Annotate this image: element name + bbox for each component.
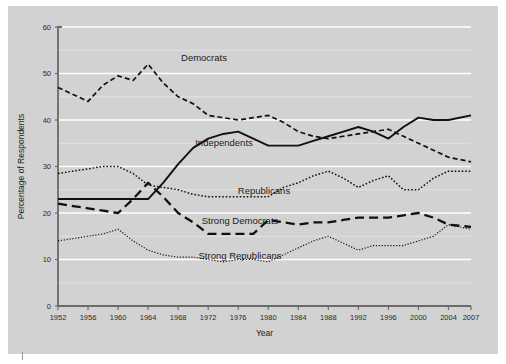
- y-tick-label-60: 60: [43, 23, 51, 32]
- x-tick-label-1972: 1972: [200, 313, 217, 322]
- chart-screenshot: 0102030405060 19521956196019641968197219…: [0, 0, 506, 364]
- series-label-republicans: Republicans: [238, 185, 291, 196]
- y-tick-label-20: 20: [43, 209, 51, 218]
- x-tick-label-1984: 1984: [290, 313, 307, 322]
- x-tick-label-2000: 2000: [410, 313, 427, 322]
- x-tick-label-1968: 1968: [170, 313, 187, 322]
- x-axis-title: Year: [256, 328, 273, 338]
- y-tick-label-30: 30: [43, 162, 51, 171]
- x-tick-labels: 1952195619601964196819721976198019841988…: [50, 313, 480, 322]
- tick-marks: [55, 27, 471, 310]
- data-series-lines: [58, 64, 471, 262]
- x-tick-label-1952: 1952: [50, 313, 67, 322]
- series-label-strong-democrats: Strong Democrats: [202, 215, 279, 226]
- series-inline-labels: DemocratsIndependentsRepublicansStrong D…: [181, 52, 290, 261]
- series-line-democrats: [58, 64, 471, 162]
- x-tick-label-1960: 1960: [110, 313, 127, 322]
- series-label-strong-republicans: Strong Republicans: [199, 250, 282, 261]
- x-tick-label-1992: 1992: [350, 313, 367, 322]
- x-tick-label-1980: 1980: [260, 313, 277, 322]
- page-corner-mark: [22, 352, 23, 360]
- x-tick-label-1988: 1988: [320, 313, 337, 322]
- line-chart-canvas: 0102030405060 19521956196019641968197219…: [8, 6, 498, 354]
- x-tick-label-1996: 1996: [380, 313, 397, 322]
- x-tick-label-2004: 2004: [440, 313, 457, 322]
- y-tick-label-50: 50: [43, 69, 51, 78]
- x-tick-label-2007: 2007: [463, 313, 480, 322]
- y-axis-title: Percentage of Respondents: [16, 114, 26, 219]
- y-tick-label-0: 0: [47, 302, 51, 311]
- series-label-independents: Independents: [195, 137, 253, 148]
- x-tick-label-1964: 1964: [140, 313, 157, 322]
- chart-figure: 0102030405060 19521956196019641968197219…: [8, 6, 498, 354]
- x-tick-label-1976: 1976: [230, 313, 247, 322]
- y-tick-labels: 0102030405060: [43, 23, 51, 311]
- y-tick-label-10: 10: [43, 255, 51, 264]
- x-tick-label-1956: 1956: [80, 313, 97, 322]
- y-tick-label-40: 40: [43, 116, 51, 125]
- series-label-democrats: Democrats: [181, 52, 227, 63]
- gridlines: [58, 27, 471, 283]
